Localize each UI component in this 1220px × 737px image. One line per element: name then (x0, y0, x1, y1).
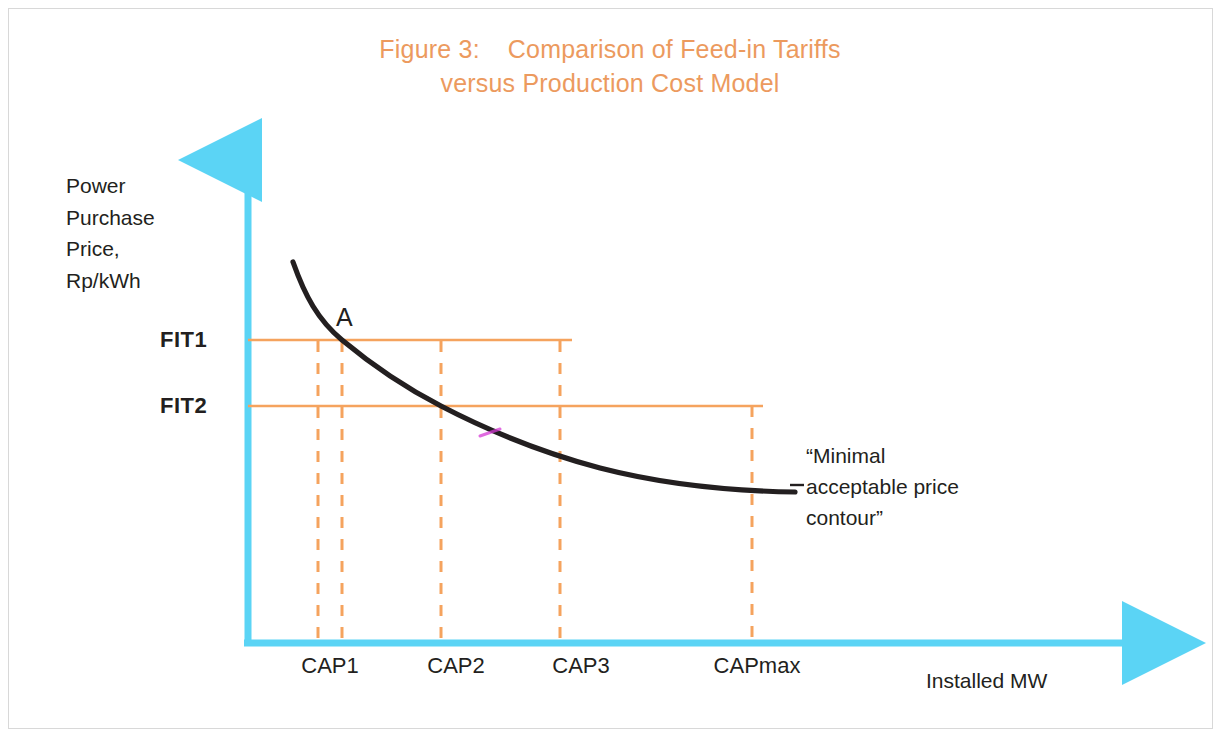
minimal-acceptable-price-contour (293, 262, 795, 492)
x-tick-label-cap2: CAP2 (400, 653, 512, 679)
point-a-label: A (336, 303, 353, 332)
fit2-label: FIT2 (160, 393, 207, 419)
x-tick-label-capmax: CAPmax (685, 653, 829, 679)
y-axis-label: Power Purchase Price, Rp/kWh (66, 170, 155, 296)
x-tick-label-cap1: CAP1 (274, 653, 386, 679)
contour-annotation: “Minimal acceptable price contour” (806, 440, 959, 533)
x-tick-label-cap3: CAP3 (525, 653, 637, 679)
figure-container: Figure 3:Comparison of Feed-in Tariffs v… (0, 0, 1220, 737)
x-axis-label: Installed MW (926, 669, 1047, 693)
plot-canvas (0, 0, 1220, 737)
fit1-label: FIT1 (160, 327, 207, 353)
